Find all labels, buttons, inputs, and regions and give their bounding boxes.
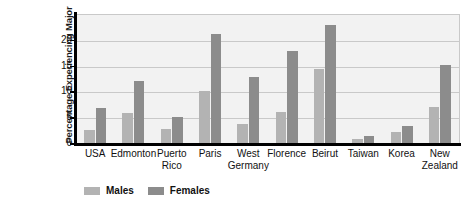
x-axis-line (74, 143, 461, 146)
chart-legend: MalesFemales (84, 186, 210, 196)
bar-females-beirut (325, 25, 336, 144)
y-axis-tick-label: 5 (50, 112, 72, 122)
bar-females-usa (96, 108, 107, 144)
legend-entry-females[interactable]: Females (148, 186, 210, 196)
bar-males-edmonton (122, 113, 133, 144)
bar-females-puerto-rico (172, 117, 183, 144)
y-axis-tick-mark (70, 91, 74, 93)
y-axis-tick-label: 0 (50, 138, 72, 148)
legend-swatch-icon (148, 187, 164, 195)
y-axis-tick-label: 20 (50, 35, 72, 45)
y-axis-tick-labels: 05101520 (50, 14, 72, 146)
legend-swatch-icon (84, 187, 100, 195)
y-axis-tick-mark (70, 143, 74, 145)
bar-chart: Percentage Experiencing Major Depression… (0, 0, 474, 210)
bar-males-usa (84, 130, 95, 144)
bar-males-new-zealand (429, 107, 440, 144)
gridline (76, 41, 459, 42)
y-axis-tick-label: 15 (50, 61, 72, 71)
bar-males-beirut (314, 69, 325, 144)
bar-females-paris (211, 34, 222, 144)
bar-males-paris (199, 91, 210, 144)
legend-label: Females (170, 186, 210, 196)
bar-females-new-zealand (440, 65, 451, 144)
y-axis-tick-mark (70, 40, 74, 42)
y-axis-tick-label: 10 (50, 86, 72, 96)
y-axis-line (74, 12, 77, 146)
bar-females-west-germany (249, 77, 260, 144)
bar-females-florence (287, 51, 298, 144)
gridline (76, 67, 459, 68)
bar-males-west-germany (237, 124, 248, 144)
bar-females-edmonton (134, 81, 145, 144)
legend-entry-males[interactable]: Males (84, 186, 134, 196)
x-axis-tick-label: New Zealand (408, 148, 472, 172)
x-axis-tick-labels: USAEdmontonPuerto RicoParisWest GermanyF… (76, 148, 460, 182)
bar-females-korea (402, 126, 413, 144)
plot-area (76, 14, 460, 144)
y-axis-tick-mark (70, 66, 74, 68)
y-axis-tick-mark (70, 117, 74, 119)
legend-label: Males (106, 186, 134, 196)
bar-males-puerto-rico (161, 129, 172, 144)
bar-males-florence (276, 112, 287, 144)
